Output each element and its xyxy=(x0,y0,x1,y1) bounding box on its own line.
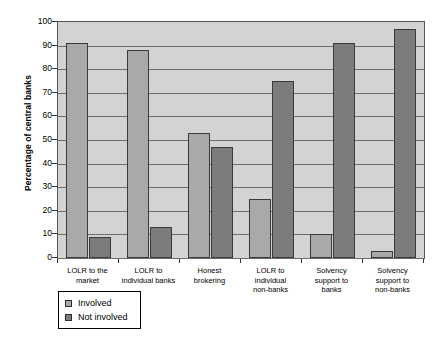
x-axis-tick-mark xyxy=(57,259,58,263)
legend-label: Not involved xyxy=(78,312,128,322)
bar-series-container xyxy=(58,22,424,258)
figure-caption xyxy=(10,341,430,348)
bar-involved xyxy=(127,50,149,258)
y-axis-tick-mark xyxy=(52,68,57,69)
y-axis-tick-label: 100 xyxy=(28,17,52,26)
y-axis-tick-mark xyxy=(52,210,57,211)
y-axis-tick-mark xyxy=(52,45,57,46)
x-axis-tick-mark xyxy=(118,259,119,263)
y-axis-tick-label: 10 xyxy=(28,229,52,238)
y-axis-tick-mark xyxy=(52,163,57,164)
bar-not-involved xyxy=(394,29,416,258)
x-axis-tick-mark xyxy=(301,259,302,263)
legend-swatch-icon xyxy=(65,314,72,321)
y-axis-tick-mark xyxy=(52,233,57,234)
y-axis-tick-mark xyxy=(52,115,57,116)
x-axis-tick-mark xyxy=(240,259,241,263)
bar-involved xyxy=(188,133,210,258)
x-axis-category-label-line: Solvency xyxy=(357,266,429,276)
bar-chart-figure: Percentage of central banks 010203040506… xyxy=(0,0,437,348)
x-axis-tick-mark xyxy=(423,259,424,263)
y-axis-tick-mark xyxy=(52,92,57,93)
y-axis-tick-mark xyxy=(52,21,57,22)
x-axis-tick-mark xyxy=(362,259,363,263)
bar-not-involved xyxy=(89,237,111,258)
y-axis-tick-label: 0 xyxy=(28,253,52,262)
x-axis-category-label: Solvencysupport tonon-banks xyxy=(357,266,429,295)
y-axis-tick-mark xyxy=(52,186,57,187)
y-axis-tick-mark xyxy=(52,139,57,140)
bar-involved xyxy=(310,234,332,258)
y-axis-tick-label: 60 xyxy=(28,111,52,120)
bar-not-involved xyxy=(333,43,355,258)
legend-item-involved: Involved xyxy=(65,296,128,310)
x-axis-category-label-line: non-banks xyxy=(357,285,429,295)
bar-involved xyxy=(371,251,393,258)
bar-not-involved xyxy=(150,227,172,258)
legend-label: Involved xyxy=(78,298,112,308)
bar-not-involved xyxy=(211,147,233,258)
y-axis-tick-label: 30 xyxy=(28,182,52,191)
y-axis-tick-label: 90 xyxy=(28,40,52,49)
y-axis-tick-labels: 0102030405060708090100 xyxy=(25,21,52,259)
plot-area xyxy=(57,21,425,259)
bar-involved xyxy=(66,43,88,258)
chart-legend: InvolvedNot involved xyxy=(58,291,141,329)
y-axis-tick-label: 50 xyxy=(28,135,52,144)
y-axis-tick-label: 80 xyxy=(28,64,52,73)
legend-swatch-icon xyxy=(65,300,72,307)
x-axis-tick-mark xyxy=(179,259,180,263)
bar-not-involved xyxy=(272,81,294,258)
y-axis-tick-mark xyxy=(52,257,57,258)
legend-item-not-involved: Not involved xyxy=(65,310,128,324)
bar-involved xyxy=(249,199,271,258)
y-axis-tick-label: 70 xyxy=(28,88,52,97)
y-axis-tick-label: 40 xyxy=(28,158,52,167)
x-axis-category-label-line: support to xyxy=(357,276,429,286)
y-axis-tick-label: 20 xyxy=(28,206,52,215)
